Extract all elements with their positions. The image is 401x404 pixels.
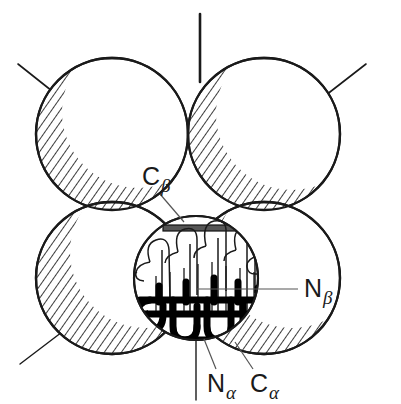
label-n-alpha-base: N bbox=[207, 369, 225, 397]
label-n-beta-subscript: β bbox=[322, 287, 333, 308]
label-n-alpha-subscript: α bbox=[226, 382, 237, 403]
label-c-beta-base: C bbox=[142, 162, 160, 190]
label-c-alpha-base: C bbox=[250, 369, 268, 397]
molecular-packing-diagram: Cβ Nβ Nα Cα bbox=[0, 0, 401, 404]
label-n-beta-base: N bbox=[304, 274, 322, 302]
label-c-alpha-subscript: α bbox=[269, 382, 280, 403]
figure-canvas: Cβ Nβ Nα Cα bbox=[0, 0, 401, 404]
label-c-beta-subscript: β bbox=[160, 175, 171, 196]
